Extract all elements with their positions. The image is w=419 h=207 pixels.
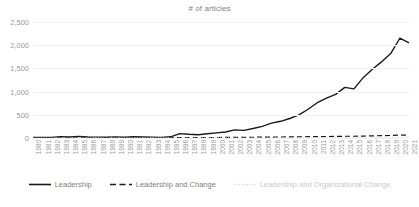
x-axis-tick-label: 2016 <box>366 140 373 154</box>
y-axis-tick-label: 2,000 <box>10 41 29 50</box>
x-axis-tick-label: 1991 <box>136 140 143 154</box>
x-axis-tick-label: 1998 <box>200 140 207 154</box>
x-axis-tick-label: 2017 <box>375 140 382 154</box>
gridline <box>33 68 409 69</box>
x-axis-tick-label: 2003 <box>246 140 253 154</box>
x-axis-tick-label: 2020 <box>402 140 409 154</box>
x-axis-tick-label: 1989 <box>118 140 125 154</box>
x-axis-tick-label: 1994 <box>164 140 171 154</box>
y-axis-tick-label: 0 <box>25 134 29 143</box>
x-axis-labels: 1980198119821983198419851986198719881989… <box>33 140 409 170</box>
chart-container: # of articles 05001,0001,5002,0002,500 1… <box>0 0 419 207</box>
x-axis-tick-label: 1997 <box>191 140 198 154</box>
series-lines <box>33 22 409 138</box>
plot-area: 05001,0001,5002,0002,500 <box>33 22 409 138</box>
y-axis-tick-label: 1,500 <box>10 64 29 73</box>
legend-item[interactable]: Leadership and Change <box>110 180 216 189</box>
x-axis-tick-label: 2011 <box>320 140 327 154</box>
x-axis-tick-label: 2018 <box>384 140 391 154</box>
x-axis-tick-label: 1985 <box>81 140 88 154</box>
series-line-0 <box>33 38 409 137</box>
x-axis-tick-label: 2021 <box>411 140 418 154</box>
x-axis-tick-label: 1995 <box>173 140 180 154</box>
y-axis-tick-label: 1,000 <box>10 87 29 96</box>
x-axis-tick-label: 2007 <box>283 140 290 154</box>
x-axis-tick-label: 1986 <box>90 140 97 154</box>
x-axis-tick-label: 2005 <box>265 140 272 154</box>
x-axis-tick-label: 1992 <box>145 140 152 154</box>
x-axis-tick-label: 2012 <box>329 140 336 154</box>
x-axis-tick-label: 2004 <box>255 140 262 154</box>
x-axis-tick-label: 1996 <box>182 140 189 154</box>
x-axis-tick-label: 2015 <box>356 140 363 154</box>
x-axis-tick-label: 2013 <box>338 140 345 154</box>
x-axis-tick-label: 1983 <box>63 140 70 154</box>
gridline <box>33 115 409 116</box>
x-axis-tick-label: 2010 <box>311 140 318 154</box>
y-axis-tick-label: 500 <box>16 110 29 119</box>
x-axis-tick-label: 2008 <box>292 140 299 154</box>
legend-label: Leadership and Change <box>136 180 216 189</box>
chart-legend: LeadershipLeadership and ChangeLeadershi… <box>0 180 419 189</box>
x-axis-tick-label: 2001 <box>228 140 235 154</box>
legend-swatch <box>29 181 51 188</box>
x-axis-tick-label: 2014 <box>347 140 354 154</box>
x-axis-tick-label: 1984 <box>72 140 79 154</box>
legend-item[interactable]: Leadership <box>29 180 92 189</box>
x-axis-tick-label: 1987 <box>100 140 107 154</box>
x-axis-tick-label: 2006 <box>274 140 281 154</box>
legend-item[interactable]: Leadership and Organizational Change <box>234 180 391 189</box>
x-axis-tick-label: 1988 <box>109 140 116 154</box>
x-axis-tick-label: 1990 <box>127 140 134 154</box>
x-axis-tick-label: 2019 <box>393 140 400 154</box>
x-axis-tick-label: 1980 <box>35 140 42 154</box>
legend-swatch <box>110 181 132 188</box>
x-axis-tick-label: 1982 <box>54 140 61 154</box>
chart-title: # of articles <box>0 4 419 13</box>
legend-label: Leadership and Organizational Change <box>260 180 391 189</box>
x-axis-tick-label: 1981 <box>45 140 52 154</box>
gridline <box>33 45 409 46</box>
gridline <box>33 22 409 23</box>
x-axis-tick-label: 1993 <box>155 140 162 154</box>
gridline <box>33 138 409 139</box>
gridline <box>33 92 409 93</box>
x-axis-tick-label: 2002 <box>237 140 244 154</box>
x-axis-tick-label: 2009 <box>301 140 308 154</box>
y-axis-tick-label: 2,500 <box>10 18 29 27</box>
x-axis-tick-label: 2000 <box>219 140 226 154</box>
x-axis-tick-label: 1999 <box>210 140 217 154</box>
legend-swatch <box>234 181 256 188</box>
legend-label: Leadership <box>55 180 92 189</box>
